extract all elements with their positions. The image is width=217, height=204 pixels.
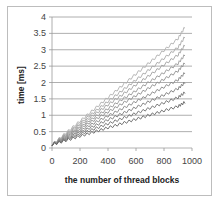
- x-tick-label: 0: [49, 156, 54, 166]
- y-tick-label: 3: [41, 45, 46, 55]
- y-tick-label: 0.5: [33, 127, 46, 137]
- series-lines: [52, 28, 185, 147]
- line-chart: 00.511.522.533.54 02004006008001000 time…: [0, 0, 217, 204]
- y-tick-label: 0: [41, 143, 46, 153]
- gridlines: [49, 17, 192, 151]
- x-axis-ticks: 02004006008001000: [49, 156, 202, 166]
- x-tick-label: 1000: [182, 156, 202, 166]
- y-tick-label: 4: [41, 12, 46, 22]
- y-tick-label: 2.5: [33, 61, 46, 71]
- x-tick-label: 400: [100, 156, 115, 166]
- x-tick-label: 200: [72, 156, 87, 166]
- y-tick-label: 1: [41, 110, 46, 120]
- series-line-s9: [52, 102, 185, 147]
- y-tick-label: 1.5: [33, 94, 46, 104]
- x-axis-label: the number of thread blocks: [65, 175, 180, 185]
- y-tick-label: 3.5: [33, 28, 46, 38]
- x-tick-label: 600: [128, 156, 143, 166]
- y-axis-label: time [ms]: [16, 66, 26, 104]
- x-tick-label: 800: [156, 156, 171, 166]
- y-tick-label: 2: [41, 78, 46, 88]
- y-axis-ticks: 00.511.522.533.54: [33, 12, 46, 153]
